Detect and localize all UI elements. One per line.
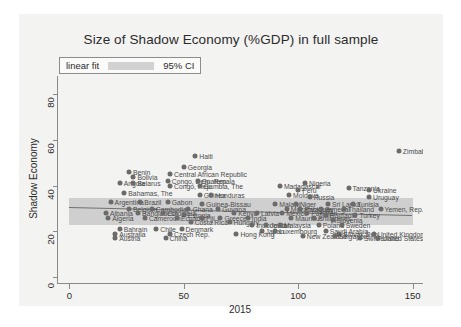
data-point-label: Algeria xyxy=(112,214,133,221)
data-point xyxy=(154,227,159,232)
data-point-label: Gambia, The xyxy=(204,182,243,189)
data-point xyxy=(197,183,202,188)
data-point xyxy=(339,222,344,227)
data-point xyxy=(136,211,141,216)
y-axis-tick-label: 20 xyxy=(45,231,56,249)
x-axis-tick xyxy=(69,284,70,289)
data-point xyxy=(303,181,308,186)
data-point xyxy=(131,181,136,186)
data-point xyxy=(289,215,294,220)
data-point-label: Honduras xyxy=(215,191,244,198)
data-point xyxy=(346,186,351,191)
data-point-label: United States xyxy=(382,235,423,242)
data-point xyxy=(264,222,269,227)
data-point-label: Hungary xyxy=(234,219,260,226)
legend-swatch-ci xyxy=(108,62,154,70)
data-point xyxy=(181,165,186,170)
y-axis-tick-label: 40 xyxy=(45,185,56,203)
data-point xyxy=(312,215,317,220)
data-point-label: Belarus xyxy=(137,180,160,187)
data-point xyxy=(316,222,321,227)
x-axis-tick xyxy=(184,284,185,289)
data-point xyxy=(174,215,179,220)
data-point xyxy=(250,222,255,227)
data-point xyxy=(117,181,122,186)
data-point-label: Haiti xyxy=(199,153,213,160)
data-point-label: Bahamas, The xyxy=(128,189,172,196)
data-point xyxy=(280,211,285,216)
data-point xyxy=(367,188,372,193)
screenshot-root: Size of Shadow Economy (%GDP) in full sa… xyxy=(0,0,461,327)
data-point xyxy=(197,192,202,197)
data-point-label: China xyxy=(170,235,188,242)
data-point xyxy=(108,199,113,204)
data-point xyxy=(168,172,173,177)
plot-frame: ZimbabweHaitiGeorgiaBeninBoliviaCentral … xyxy=(57,76,423,284)
legend-entry-ci: 95% CI xyxy=(163,60,194,71)
x-axis-tick-label: 100 xyxy=(290,290,306,301)
data-point xyxy=(106,215,111,220)
x-axis-tick xyxy=(413,284,414,289)
data-point xyxy=(287,192,292,197)
data-point xyxy=(209,192,214,197)
chart-title: Size of Shadow Economy (%GDP) in full sa… xyxy=(19,32,443,47)
data-point xyxy=(122,190,127,195)
data-point xyxy=(168,183,173,188)
x-axis-label: 2015 xyxy=(229,304,251,315)
data-point xyxy=(234,231,239,236)
x-axis-tick-label: 150 xyxy=(405,290,421,301)
data-point-label: Yemen, Rep. xyxy=(385,205,423,212)
data-point xyxy=(138,199,143,204)
graph-panel: Size of Shadow Economy (%GDP) in full sa… xyxy=(19,14,443,306)
data-point-label: Zimbabwe xyxy=(403,148,423,155)
data-point xyxy=(126,170,131,175)
x-axis-tick xyxy=(298,284,299,289)
data-point xyxy=(227,220,232,225)
y-axis-tick-label: 60 xyxy=(45,140,56,158)
data-point xyxy=(378,206,383,211)
data-point xyxy=(307,195,312,200)
data-point xyxy=(300,234,305,239)
data-point xyxy=(113,236,118,241)
data-point xyxy=(376,236,381,241)
chart-legend: linear fit 95% CI xyxy=(59,57,201,74)
data-point xyxy=(165,199,170,204)
data-point xyxy=(273,202,278,207)
y-axis-tick-label: 80 xyxy=(45,94,56,112)
y-axis-label: Shadow Economy xyxy=(28,119,39,239)
data-point xyxy=(396,149,401,154)
y-axis-tick-label: 0 xyxy=(45,277,56,295)
data-point xyxy=(131,174,136,179)
data-point-label: Austria xyxy=(119,235,140,242)
data-point-label: Hong Kong xyxy=(240,230,274,237)
data-point xyxy=(277,222,282,227)
data-point xyxy=(277,183,282,188)
data-point xyxy=(216,206,221,211)
data-point xyxy=(163,236,168,241)
data-point xyxy=(332,234,337,239)
data-point xyxy=(188,220,193,225)
x-axis-tick-label: 0 xyxy=(67,290,72,301)
data-point xyxy=(341,206,346,211)
legend-entry-linear-fit: linear fit xyxy=(66,60,99,71)
data-point xyxy=(367,195,372,200)
data-point xyxy=(142,215,147,220)
data-point xyxy=(193,154,198,159)
plot-area: ZimbabweHaitiGeorgiaBeninBoliviaCentral … xyxy=(58,76,423,283)
x-axis-tick-label: 50 xyxy=(179,290,190,301)
data-point xyxy=(357,236,362,241)
